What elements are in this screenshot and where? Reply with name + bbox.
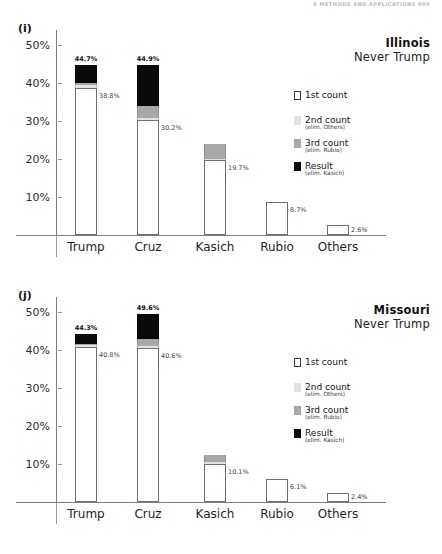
x-axis-label-trump: Trump	[67, 507, 104, 521]
y-axis-extension	[56, 235, 57, 257]
legend-item-third[interactable]: 3rd count(elim. Rubio)	[294, 138, 434, 155]
y-axis-tick-mark	[58, 350, 62, 351]
legend-item-result[interactable]: Result(elim. Kasich)	[294, 161, 434, 178]
legend-item-second[interactable]: 2nd count(elim. Others)	[294, 115, 434, 132]
bar-segment-first-count	[204, 464, 226, 502]
bar-cruz[interactable]: 49.6%40.6%	[137, 314, 159, 502]
bar-segment-result	[137, 314, 159, 339]
y-axis-tick-mark	[58, 159, 62, 160]
bar-first-count-label: 40.8%	[99, 351, 120, 359]
bar-segment-second-count	[75, 85, 97, 87]
bar-segment-third-count	[75, 344, 97, 346]
legend-item-label: 1st count	[305, 357, 347, 367]
x-axis-label-others: Others	[318, 240, 358, 254]
panel-label: (j)	[18, 289, 32, 302]
legend-swatch-first-icon	[294, 358, 301, 367]
bar-trump[interactable]: 44.7%38.8%	[75, 65, 97, 235]
bar-rubio[interactable]: 6.1%	[266, 479, 288, 502]
chart-panel-illinois: (i)10%20%30%40%50%44.7%38.8%Trump44.9%30…	[0, 18, 442, 280]
y-axis-tick-label: 50%	[12, 306, 50, 319]
legend-item-sublabel: (elim. Kasich)	[305, 170, 344, 176]
bar-segment-result	[75, 334, 97, 344]
legend-swatch-result-icon	[294, 429, 301, 438]
bar-segment-first-count	[266, 479, 288, 502]
panel-label: (i)	[18, 22, 32, 35]
legend-swatch-result-icon	[294, 162, 301, 171]
y-axis-tick-mark	[58, 45, 62, 46]
bar-kasich[interactable]: 19.7%	[204, 144, 226, 235]
bar-others[interactable]: 2.4%	[327, 493, 349, 502]
x-axis-label-kasich: Kasich	[196, 240, 235, 254]
y-axis-tick-label: 40%	[12, 77, 50, 90]
bar-first-count-label: 2.4%	[351, 493, 368, 501]
bar-segment-third-count	[137, 339, 159, 346]
page-running-header: 6 METHODS AND APPLICATIONS 000	[0, 1, 442, 10]
chart-panel-missouri: (j)10%20%30%40%50%44.3%40.8%Trump49.6%40…	[0, 285, 442, 547]
bar-segment-third-count	[204, 144, 226, 159]
legend-item-sublabel: (elim. Rubio)	[305, 414, 342, 420]
y-axis-tick-label: 50%	[12, 39, 50, 52]
bar-segment-third-count	[137, 106, 159, 119]
legend-item-label: 1st count	[305, 90, 347, 100]
bar-first-count-label: 40.6%	[161, 352, 182, 360]
bar-segment-first-count	[75, 347, 97, 502]
bar-segment-second-count	[204, 159, 226, 161]
chart-legend: 1st count2nd count(elim. Others)3rd coun…	[294, 357, 434, 451]
chart-state-subtitle: Never Trump	[354, 50, 430, 64]
y-axis-tick-label: 20%	[12, 420, 50, 433]
bar-segment-third-count	[204, 455, 226, 463]
y-axis-tick-label: 10%	[12, 458, 50, 471]
bar-segment-first-count	[204, 160, 226, 235]
y-axis-tick-label: 30%	[12, 115, 50, 128]
bar-total-label: 49.6%	[137, 304, 160, 312]
bar-first-count-label: 30.2%	[161, 124, 182, 132]
legend-item-third[interactable]: 3rd count(elim. Rubio)	[294, 405, 434, 422]
bar-segment-result	[137, 65, 159, 106]
bar-segment-first-count	[137, 348, 159, 502]
legend-item-first[interactable]: 1st count	[294, 90, 434, 101]
legend-item-result[interactable]: Result(elim. Kasich)	[294, 428, 434, 445]
x-axis-label-trump: Trump	[67, 240, 104, 254]
legend-item-first[interactable]: 1st count	[294, 357, 434, 368]
legend-item-sublabel: (elim. Kasich)	[305, 437, 344, 443]
bar-cruz[interactable]: 44.9%30.2%	[137, 65, 159, 235]
chart-state-subtitle: Never Trump	[354, 317, 430, 331]
bar-segment-second-count	[75, 345, 97, 347]
bar-total-label: 44.9%	[137, 55, 160, 63]
legend-item-sublabel: (elim. Others)	[305, 391, 345, 397]
bar-segment-result	[75, 65, 97, 83]
y-axis-tick-mark	[58, 464, 62, 465]
legend-swatch-second-icon	[294, 116, 301, 125]
y-axis-tick-mark	[58, 426, 62, 427]
bar-kasich[interactable]: 10.1%	[204, 455, 226, 502]
bar-segment-second-count	[137, 346, 159, 348]
chart-legend: 1st count2nd count(elim. Others)3rd coun…	[294, 90, 434, 184]
bar-total-label: 44.3%	[75, 324, 98, 332]
bar-segment-first-count	[327, 493, 349, 502]
chart-state-title: Missouri	[374, 303, 430, 317]
y-axis-tick-mark	[58, 83, 62, 84]
y-axis-tick-label: 20%	[12, 153, 50, 166]
bar-segment-first-count	[327, 225, 349, 235]
bar-segment-first-count	[266, 202, 288, 235]
x-axis-line	[16, 502, 386, 503]
y-axis-line	[56, 297, 57, 502]
y-axis-tick-label: 40%	[12, 344, 50, 357]
legend-item-sublabel: (elim. Rubio)	[305, 147, 342, 153]
bar-segment-first-count	[137, 120, 159, 235]
bar-first-count-label: 8.7%	[290, 206, 307, 214]
bar-trump[interactable]: 44.3%40.8%	[75, 334, 97, 502]
y-axis-tick-mark	[58, 121, 62, 122]
bar-rubio[interactable]: 8.7%	[266, 202, 288, 235]
y-axis-tick-label: 30%	[12, 382, 50, 395]
legend-swatch-first-icon	[294, 91, 301, 100]
legend-item-second[interactable]: 2nd count(elim. Others)	[294, 382, 434, 399]
y-axis-line	[56, 30, 57, 235]
y-axis-tick-mark	[58, 312, 62, 313]
bar-segment-third-count	[75, 83, 97, 85]
bar-others[interactable]: 2.6%	[327, 225, 349, 235]
chart-state-title: Illinois	[385, 36, 430, 50]
y-axis-tick-label: 10%	[12, 191, 50, 204]
x-axis-label-cruz: Cruz	[134, 240, 161, 254]
bar-first-count-label: 6.1%	[290, 483, 307, 491]
